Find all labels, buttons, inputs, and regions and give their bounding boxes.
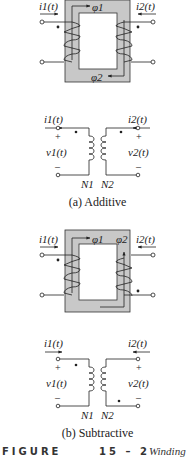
terminal — [56, 173, 60, 177]
current-label-right: i2(t) — [128, 337, 147, 350]
terminal — [136, 404, 140, 408]
current-label-left: i1(t) — [39, 0, 58, 13]
polarity-dot-right — [137, 26, 140, 29]
terminal — [151, 60, 155, 64]
minus-left: – — [54, 392, 61, 403]
terminal — [56, 404, 60, 408]
panel-a-core-diagram: i1(t) i2(t) φ1 φ2 — [39, 0, 156, 83]
terminal — [136, 173, 140, 177]
terminal — [56, 126, 60, 130]
figure-canvas: i1(t) i2(t) φ1 φ2 i1(t) i2(t) + – + – v1… — [0, 0, 195, 458]
minus-right: – — [135, 161, 142, 172]
terminal — [151, 20, 155, 24]
plus-left: + — [55, 131, 61, 142]
core-window — [79, 13, 117, 69]
current-label-right: i2(t) — [136, 0, 155, 13]
flux-label-1: φ1 — [92, 233, 104, 245]
terminal — [136, 357, 140, 361]
flux-label-2: φ2 — [116, 233, 128, 245]
terminal — [136, 126, 140, 130]
panel-b-caption: (b) Subtractive — [62, 426, 134, 440]
turns-label-right: N2 — [100, 178, 114, 190]
plus-right: + — [136, 362, 142, 373]
terminal — [40, 253, 44, 257]
flux-label-1: φ1 — [92, 1, 104, 13]
minus-left: – — [54, 161, 61, 172]
figure-label: FIGURE — [2, 446, 61, 457]
polarity-dot-right — [137, 290, 140, 293]
polarity-dot-left — [57, 26, 60, 29]
plus-left: + — [55, 362, 61, 373]
figure-number: 15 – 2 — [99, 446, 150, 457]
panel-b-core-diagram: i1(t) i2(t) φ1 φ2 — [39, 230, 156, 312]
voltage-label-left: v1(t) — [46, 146, 67, 159]
voltage-label-right: v2(t) — [128, 377, 149, 390]
terminal — [40, 20, 44, 24]
plus-right: + — [136, 131, 142, 142]
panel-a-schematic: i1(t) i2(t) + – + – v1(t) v2(t) N1 N2 (a… — [44, 113, 150, 209]
flux-label-2: φ2 — [91, 71, 103, 83]
core-window — [79, 244, 117, 300]
terminal — [151, 293, 155, 297]
minus-right: – — [135, 392, 142, 403]
turns-label-left: N1 — [80, 178, 94, 190]
polarity-dot-left — [75, 364, 78, 367]
current-label-right: i2(t) — [136, 233, 155, 246]
terminal — [151, 253, 155, 257]
current-label-left: i1(t) — [39, 233, 58, 246]
voltage-label-left: v1(t) — [46, 377, 67, 390]
current-label-left: i1(t) — [44, 113, 63, 126]
figure-caption: FIGURE 15 – 2 Winding — [2, 445, 186, 457]
voltage-label-right: v2(t) — [128, 146, 149, 159]
turns-label-left: N1 — [80, 409, 94, 421]
terminal — [40, 293, 44, 297]
current-label-left: i1(t) — [44, 337, 63, 350]
terminal — [40, 60, 44, 64]
turns-label-right: N2 — [100, 409, 114, 421]
polarity-dot-left — [57, 259, 60, 262]
panel-b-schematic: i1(t) i2(t) + – + – v1(t) v2(t) N1 N2 (b… — [44, 337, 150, 440]
polarity-dot-right — [118, 400, 121, 403]
current-label-right: i2(t) — [128, 113, 147, 126]
terminal — [56, 357, 60, 361]
polarity-dot-right — [120, 131, 123, 134]
polarity-dot-left — [75, 131, 78, 134]
figure-title-fragment: Winding — [149, 445, 186, 457]
panel-a-caption: (a) Additive — [69, 195, 127, 209]
